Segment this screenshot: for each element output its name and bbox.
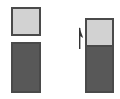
left-dark-block — [11, 42, 41, 93]
right-stacked-blocks — [85, 18, 114, 93]
diagram-canvas — [0, 0, 120, 99]
right-dark-segment — [87, 47, 112, 91]
right-light-segment — [87, 20, 112, 47]
left-light-block — [11, 7, 41, 36]
